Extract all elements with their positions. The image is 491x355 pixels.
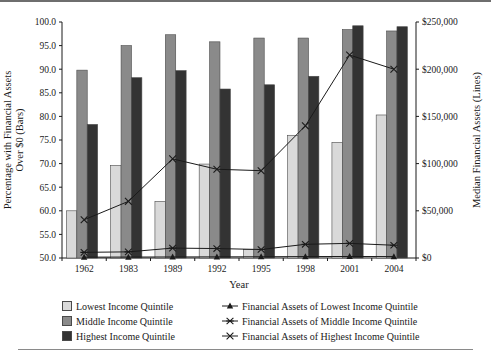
svg-text:65.0: 65.0	[39, 183, 56, 193]
x-axis-title: Year	[229, 279, 249, 290]
svg-text:$250,000: $250,000	[422, 17, 458, 27]
legend-label: Lowest Income Quintile	[76, 301, 173, 312]
legend-item-bar: Highest Income Quintile	[62, 330, 175, 342]
svg-text:1989: 1989	[163, 264, 182, 274]
legend-item-line: Financial Assets of Highest Income Quint…	[222, 330, 419, 342]
top-rule	[0, 0, 491, 2]
bar	[165, 35, 175, 258]
bar	[288, 135, 298, 258]
legend-item-bar: Middle Income Quintile	[62, 315, 175, 327]
svg-text:2004: 2004	[384, 264, 403, 274]
svg-text:70.0: 70.0	[39, 159, 56, 169]
svg-text:$150,000: $150,000	[422, 112, 458, 122]
chart-figure: 50.055.060.065.070.075.080.085.090.095.0…	[0, 0, 491, 355]
legend-label: Financial Assets of Highest Income Quint…	[242, 331, 419, 342]
svg-text:90.0: 90.0	[39, 65, 56, 75]
legend-lines: Financial Assets of Lowest Income Quinti…	[222, 300, 419, 342]
svg-text:100.0: 100.0	[35, 17, 57, 27]
svg-text:60.0: 60.0	[39, 206, 56, 216]
bar	[298, 38, 308, 258]
legend-marker-icon	[222, 301, 238, 311]
legend-marker-icon	[222, 316, 238, 326]
bar	[176, 71, 186, 258]
bar	[220, 89, 230, 258]
bar-series-group	[66, 26, 407, 258]
bar	[210, 42, 220, 258]
svg-text:$200,000: $200,000	[422, 65, 458, 75]
svg-text:50.0: 50.0	[39, 253, 56, 263]
svg-text:$100,000: $100,000	[422, 159, 458, 169]
bar	[387, 31, 397, 258]
legend-swatch-icon	[62, 301, 72, 311]
svg-text:$0: $0	[422, 253, 432, 263]
legend-bars: Lowest Income QuintileMiddle Income Quin…	[62, 300, 175, 342]
legend-label: Financial Assets of Middle Income Quinti…	[242, 316, 417, 327]
legend-label: Financial Assets of Lowest Income Quinti…	[242, 301, 418, 312]
y-axis-right-title: Median Financial Assets (Lines)	[471, 71, 483, 208]
x-axis: 19621983198919921995199820012004	[62, 258, 416, 274]
bottom-rule	[18, 349, 473, 350]
legend-marker-icon	[222, 331, 238, 341]
svg-text:1962: 1962	[75, 264, 94, 274]
bar	[77, 70, 87, 258]
legend-item-bar: Lowest Income Quintile	[62, 300, 175, 312]
legend-item-line: Financial Assets of Lowest Income Quinti…	[222, 300, 419, 312]
svg-text:1998: 1998	[296, 264, 315, 274]
bar	[199, 164, 209, 258]
bar	[121, 46, 131, 258]
chart-canvas: 50.055.060.065.070.075.080.085.090.095.0…	[0, 0, 491, 296]
svg-text:1995: 1995	[252, 264, 271, 274]
marker-asterisk	[226, 318, 234, 324]
bar	[111, 165, 121, 258]
svg-text:95.0: 95.0	[39, 41, 56, 51]
bar	[332, 142, 342, 258]
svg-text:75.0: 75.0	[39, 135, 56, 145]
svg-text:2001: 2001	[340, 264, 359, 274]
legend-item-line: Financial Assets of Middle Income Quinti…	[222, 315, 419, 327]
bar	[131, 78, 141, 258]
bar	[254, 38, 264, 258]
svg-text:55.0: 55.0	[39, 230, 56, 240]
bar	[66, 211, 76, 258]
bar	[353, 26, 363, 258]
legend-swatch-icon	[62, 316, 72, 326]
bar	[264, 85, 274, 258]
svg-text:80.0: 80.0	[39, 112, 56, 122]
legend-swatch-icon	[62, 331, 72, 341]
svg-text:85.0: 85.0	[39, 88, 56, 98]
y-axis-left: 50.055.060.065.070.075.080.085.090.095.0…	[35, 17, 62, 263]
bar	[308, 76, 318, 258]
bar	[87, 124, 97, 258]
svg-text:1983: 1983	[119, 264, 138, 274]
svg-text:$50,000: $50,000	[422, 206, 453, 216]
legend-label: Middle Income Quintile	[76, 316, 173, 327]
bar	[376, 115, 386, 258]
legend-label: Highest Income Quintile	[76, 331, 175, 342]
y-axis-left-title: Percentage with Financial AssetsOver $0 …	[2, 71, 26, 210]
bar	[397, 27, 407, 258]
svg-text:1992: 1992	[207, 264, 226, 274]
y-axis-right: $0$50,000$100,000$150,000$200,000$250,00…	[416, 17, 458, 263]
